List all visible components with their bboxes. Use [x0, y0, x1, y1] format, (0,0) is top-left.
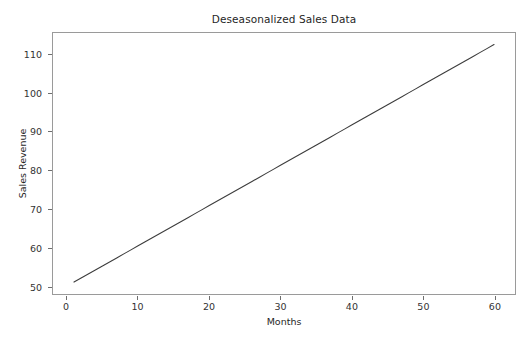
- x-tick-label: 60: [489, 301, 501, 312]
- x-tick-mark: [209, 296, 210, 300]
- y-tick-mark: [48, 131, 52, 132]
- chart-title: Deseasonalized Sales Data: [52, 13, 516, 25]
- x-tick-label: 30: [274, 301, 286, 312]
- x-tick-mark: [66, 296, 67, 300]
- y-tick-mark: [48, 170, 52, 171]
- x-tick-label: 0: [63, 301, 69, 312]
- x-tick-label: 50: [417, 301, 429, 312]
- x-axis-label: Months: [52, 316, 516, 327]
- x-tick-mark: [495, 296, 496, 300]
- y-tick-mark: [48, 248, 52, 249]
- y-tick-mark: [48, 209, 52, 210]
- plot-area: [52, 32, 516, 295]
- data-line-svg: [53, 33, 515, 294]
- series-line-deseasonalized-sales: [74, 45, 494, 282]
- x-tick-label: 40: [346, 301, 358, 312]
- y-tick-mark: [48, 93, 52, 94]
- chart-figure: Deseasonalized Sales Data 0102030405060 …: [0, 0, 532, 337]
- x-tick-mark: [352, 296, 353, 300]
- x-tick-mark: [280, 296, 281, 300]
- x-tick-mark: [137, 296, 138, 300]
- y-tick-mark: [48, 287, 52, 288]
- x-tick-label: 20: [203, 301, 215, 312]
- y-axis-label: Sales Revenue: [14, 32, 32, 295]
- y-tick-mark: [48, 54, 52, 55]
- x-tick-mark: [423, 296, 424, 300]
- x-tick-label: 10: [131, 301, 143, 312]
